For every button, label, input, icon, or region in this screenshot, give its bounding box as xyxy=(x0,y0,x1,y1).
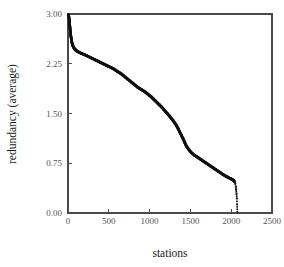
y-tick-label: 1.50 xyxy=(46,109,62,119)
y-axis-tick-labels: 0.000.751.502.253.00 xyxy=(46,9,62,218)
y-tick-label: 2.25 xyxy=(46,59,62,69)
y-axis-title: redundancy (average) xyxy=(6,64,19,164)
x-tick-label: 1000 xyxy=(141,216,160,226)
data-series-redundancy xyxy=(67,13,238,212)
redundancy-vs-stations-chart: 05001000150020002500 0.000.751.502.253.0… xyxy=(0,0,284,267)
data-point xyxy=(234,181,236,183)
x-tick-label: 2500 xyxy=(263,216,282,226)
data-point xyxy=(235,191,237,193)
data-point xyxy=(235,187,237,189)
y-tick-label: 0.00 xyxy=(46,208,62,218)
data-point xyxy=(236,198,238,200)
y-tick-label: 3.00 xyxy=(46,9,62,19)
x-axis-title: stations xyxy=(152,247,188,259)
x-tick-label: 2000 xyxy=(222,216,241,226)
data-point xyxy=(235,189,237,191)
data-point xyxy=(236,201,238,203)
data-point xyxy=(236,211,238,213)
data-point xyxy=(236,195,238,197)
plot-frame xyxy=(68,14,272,213)
data-point xyxy=(236,204,238,206)
x-tick-label: 0 xyxy=(66,216,71,226)
data-point xyxy=(236,208,238,210)
x-tick-label: 500 xyxy=(102,216,116,226)
y-tick-label: 0.75 xyxy=(46,158,62,168)
x-tick-label: 1500 xyxy=(181,216,200,226)
data-point xyxy=(235,186,237,188)
data-point xyxy=(236,193,238,195)
x-axis-tick-labels: 05001000150020002500 xyxy=(66,216,282,226)
data-point xyxy=(234,183,236,185)
x-axis-ticks xyxy=(68,209,272,213)
data-point xyxy=(236,206,238,208)
chart-figure: 05001000150020002500 0.000.751.502.253.0… xyxy=(0,0,284,267)
